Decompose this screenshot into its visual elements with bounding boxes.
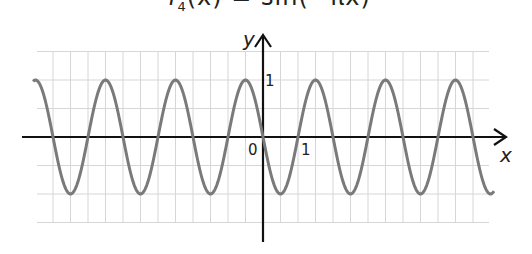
x-tick-1-label: 1 — [301, 141, 311, 159]
y-tick-1-label: 1 — [265, 72, 275, 90]
y-axis-label: y — [242, 27, 256, 51]
origin-label: 0 — [248, 141, 258, 159]
x-axis-label: x — [499, 143, 512, 167]
chart-plot: x y 0 1 1 — [0, 0, 532, 254]
